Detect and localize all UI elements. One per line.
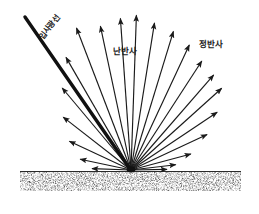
ray-right-1 <box>131 31 173 170</box>
specular-reflection-label: 정반사 <box>199 40 223 49</box>
ray-center <box>131 15 136 170</box>
reflection-diagram: 입사광선 난반사 정반사 <box>0 0 259 214</box>
rough-surface <box>20 172 241 192</box>
diffuse-reflection-label: 난반사 <box>113 47 137 56</box>
ray-left-5 <box>66 57 131 170</box>
convergence-point <box>127 167 136 173</box>
reflected-ray-fan <box>62 15 222 170</box>
ray-right-horizontal <box>131 169 167 170</box>
ray-center-right <box>131 23 155 170</box>
ray-right-2 <box>131 45 189 170</box>
